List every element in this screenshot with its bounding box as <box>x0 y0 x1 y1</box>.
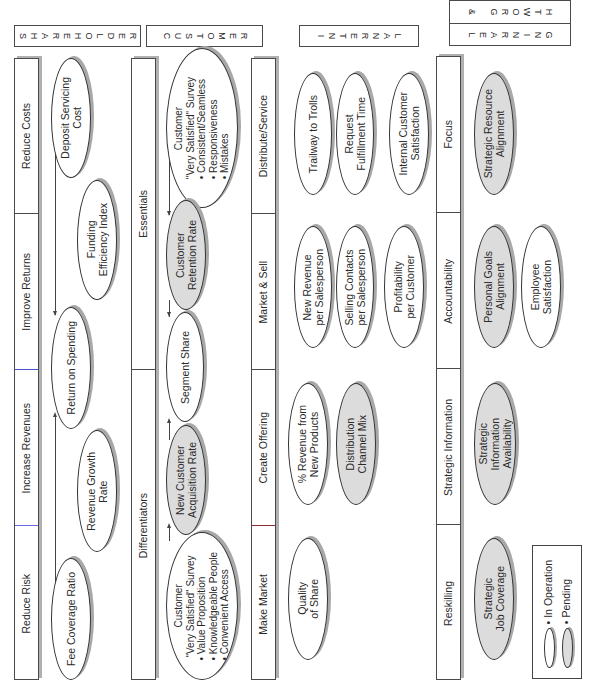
shareholder-theme-bar: Reduce Costs Improve Returns Increase Re… <box>14 58 39 680</box>
theme-label: Differentiators <box>137 493 149 558</box>
theme-label: Market & Sell <box>257 261 269 323</box>
measure-quality-of-share[interactable]: Qualityof Share <box>288 538 328 660</box>
measure-label: % Revenue fromNew Products <box>296 405 320 483</box>
theme-label: Improve Returns <box>20 253 32 331</box>
measure-return-on-spending[interactable]: Return on Spending <box>51 307 91 429</box>
theme-strategic-information: Strategic Information <box>437 368 460 525</box>
theme-increase-revenues: Increase Revenues <box>15 369 38 526</box>
measure-label: EmployeeSatisfaction <box>529 260 553 314</box>
measure-funding-efficiency-index[interactable]: FundingEfficiency Index <box>77 180 117 300</box>
connector-line <box>55 415 56 585</box>
measure-selling-contacts-per-salesperson[interactable]: Selling Contactsper Salesperson <box>336 226 374 348</box>
connector-line <box>169 420 170 440</box>
perspective-header-internal: INTERNAL <box>299 25 419 47</box>
theme-market-sell: Market & Sell <box>252 213 275 370</box>
measure-pct-revenue-new-products[interactable]: % Revenue fromNew Products <box>288 383 328 505</box>
measure-label: Strategic ResourceAlignment <box>482 89 506 178</box>
measure-strategic-information-availability[interactable]: StrategicInformationAvailability <box>474 383 516 505</box>
arrow-down-icon <box>53 311 57 316</box>
theme-label: Distribute/Service <box>257 95 269 177</box>
measure-label: StrategicJob Coverage <box>482 566 506 631</box>
theme-label: Reskilling <box>442 581 454 626</box>
measure-label: New CustomerAcquisition Rate <box>174 442 198 518</box>
measure-label: RequestFulfillment Time <box>343 97 367 171</box>
measure-label: Profitabilityper Customer <box>392 255 416 319</box>
measure-internal-customer-satisfaction[interactable]: Internal CustomerSatisfaction <box>389 73 429 195</box>
legend: • In Operation • Pending <box>532 545 582 679</box>
theme-label: Accountability <box>442 259 454 324</box>
measure-label: FundingEfficiency Index <box>85 203 109 276</box>
perspective-header-learning-growth-bottom: LEARNING <box>449 23 571 46</box>
legend-pending-label: • Pending <box>560 579 572 624</box>
measure-employee-satisfaction[interactable]: EmployeeSatisfaction <box>521 226 561 348</box>
measure-request-fulfillment-time[interactable]: RequestFulfillment Time <box>336 73 374 195</box>
measure-label: Segment Share <box>179 331 191 404</box>
theme-essentials: Essentials <box>132 59 155 369</box>
measure-profitability-per-customer[interactable]: Profitabilityper Customer <box>384 226 424 348</box>
theme-label: Strategic Information <box>442 399 454 496</box>
measure-label: Selling Contactsper Salesperson <box>343 249 367 325</box>
measure-label: Deposit ServicingCost <box>59 77 83 159</box>
measure-label: Internal CustomerSatisfaction <box>397 92 421 175</box>
perspective-label: INTERNAL <box>315 31 403 41</box>
measure-label: Customer"Very Satisfied" Survey• Value P… <box>173 552 231 661</box>
perspective-label: SHAREHOLDER <box>17 31 138 41</box>
measure-very-satisfied-survey-differentiators[interactable]: Customer"Very Satisfied" Survey• Value P… <box>166 532 238 680</box>
measure-label: Trailway to Trolls <box>307 95 319 173</box>
arrow-up-icon <box>167 418 171 423</box>
learning-growth-theme-bar: Focus Accountability Strategic Informati… <box>436 56 461 680</box>
theme-reskilling: Reskilling <box>437 524 460 682</box>
arrow-down-icon <box>167 211 171 216</box>
measure-trailway-to-trolls[interactable]: Trailway to Trolls <box>294 73 332 195</box>
arrow-up-icon <box>53 412 57 417</box>
measure-strategic-resource-alignment[interactable]: Strategic ResourceAlignment <box>474 73 514 195</box>
measure-label: Return on Spending <box>65 321 77 414</box>
measure-very-satisfied-survey-essentials[interactable]: Customer"Very Satisfied" Survey• Consist… <box>166 48 238 208</box>
measure-revenue-growth-rate[interactable]: Revenue GrowthRate <box>77 430 117 552</box>
measure-distribution-channel-mix[interactable]: DistributionChannel Mix <box>336 383 376 505</box>
perspective-label: LEARNING <box>466 30 554 40</box>
theme-label: Increase Revenues <box>20 403 32 493</box>
measure-label: Revenue GrowthRate <box>85 452 109 531</box>
measure-personal-goals-alignment[interactable]: Personal GoalsAlignment <box>474 226 514 348</box>
perspective-header-shareholder: SHAREHOLDER <box>14 25 141 47</box>
measure-label: DistributionChannel Mix <box>344 415 368 473</box>
measure-label: Qualityof Share <box>296 579 320 619</box>
measure-label: Fee Coverage Ratio <box>65 572 77 666</box>
measure-label: New Revenueper Salesperson <box>301 249 325 325</box>
perspective-label: CUSTOMER <box>161 31 249 41</box>
measure-label: StrategicInformationAvailability <box>477 418 513 471</box>
internal-theme-bar: Distribute/Service Market & Sell Create … <box>251 58 276 680</box>
legend-pending-swatch <box>562 628 573 668</box>
measure-new-customer-acquisition-rate[interactable]: New CustomerAcquisition Rate <box>166 425 206 535</box>
theme-label: Reduce Costs <box>20 103 32 169</box>
theme-accountability: Accountability <box>437 212 460 369</box>
measure-fee-coverage-ratio[interactable]: Fee Coverage Ratio <box>51 558 91 680</box>
customer-theme-bar: Essentials Differentiators <box>131 58 156 680</box>
measure-label: CustomerRetention Rate <box>174 220 198 290</box>
theme-reduce-risk: Reduce Risk <box>15 525 38 682</box>
perspective-header-customer: CUSTOMER <box>146 25 263 47</box>
theme-distribute-service: Distribute/Service <box>252 59 275 213</box>
theme-label: Focus <box>442 120 454 149</box>
legend-in-operation-label: • In Operation <box>542 560 554 624</box>
theme-label: Make Market <box>257 574 269 635</box>
theme-label: Reduce Risk <box>20 574 32 634</box>
measure-strategic-job-coverage[interactable]: StrategicJob Coverage <box>474 538 514 660</box>
perspective-header-learning-growth-top: & GROWTH <box>449 0 571 24</box>
theme-label: Essentials <box>137 190 149 238</box>
measure-deposit-servicing-cost[interactable]: Deposit ServicingCost <box>51 58 91 178</box>
theme-make-market: Make Market <box>252 525 275 682</box>
theme-improve-returns: Improve Returns <box>15 213 38 370</box>
measure-label: Personal GoalsAlignment <box>482 251 506 323</box>
arrow-down-icon <box>167 312 171 317</box>
theme-differentiators: Differentiators <box>132 369 155 682</box>
measure-customer-retention-rate[interactable]: CustomerRetention Rate <box>166 200 206 310</box>
theme-create-offering: Create Offering <box>252 369 275 526</box>
theme-label: Create Offering <box>257 412 269 484</box>
measure-segment-share[interactable]: Segment Share <box>166 312 204 422</box>
legend-in-operation-swatch <box>544 628 555 668</box>
measure-label: Customer"Very Satisfied" Survey• Consist… <box>173 77 231 179</box>
theme-focus: Focus <box>437 57 460 212</box>
measure-new-revenue-per-salesperson[interactable]: New Revenueper Salesperson <box>294 226 332 348</box>
